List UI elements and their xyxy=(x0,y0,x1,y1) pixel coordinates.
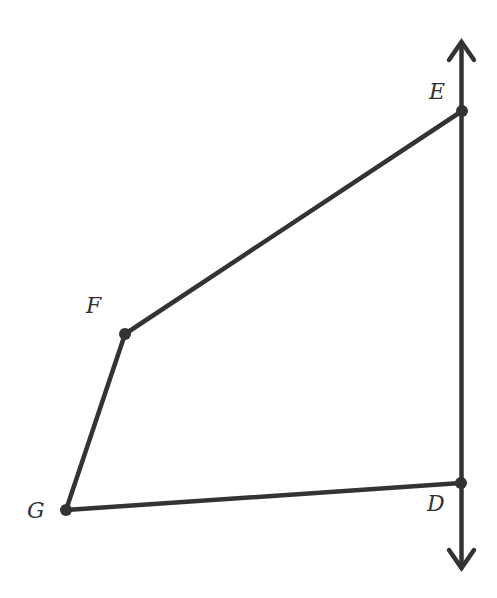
label-e: E xyxy=(428,79,445,104)
label-d: D xyxy=(426,491,445,516)
segment-gd xyxy=(66,483,461,510)
label-f: F xyxy=(85,293,102,318)
point-f xyxy=(119,328,131,340)
point-d xyxy=(455,477,467,489)
geometry-diagram: E F G D xyxy=(0,0,497,598)
point-e xyxy=(456,105,468,117)
label-g: G xyxy=(27,498,45,523)
point-g xyxy=(60,504,72,516)
segment-ef xyxy=(125,111,462,334)
segment-fg xyxy=(66,334,125,510)
line-de xyxy=(449,42,474,568)
